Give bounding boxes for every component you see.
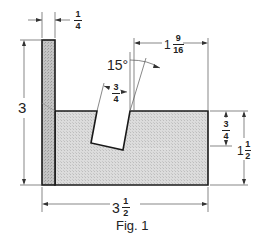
numerator: 9 [176, 34, 181, 43]
numerator: 1 [75, 10, 80, 19]
dim-slot-angle: 15° [107, 58, 128, 72]
numerator: 1 [123, 197, 128, 206]
whole-part: 1 [237, 144, 244, 158]
figure-caption: Fig. 1 [116, 219, 149, 232]
denominator: 4 [223, 132, 228, 141]
denominator: 4 [113, 95, 118, 104]
denominator: 16 [173, 46, 183, 55]
denominator: 4 [75, 22, 80, 31]
dim-overall-height: 3 [18, 100, 26, 115]
base-block [55, 111, 208, 185]
dim-upright-thickness: 1 4 [74, 10, 82, 31]
whole-part: 3 [112, 200, 120, 216]
denominator: 2 [123, 209, 128, 218]
dim-base-height: 1 1 2 [237, 140, 251, 161]
numerator: 3 [223, 120, 228, 129]
whole-part: 1 [164, 38, 171, 52]
upright [42, 40, 55, 185]
dim-slot-to-right-edge: 1 9 16 [164, 34, 184, 55]
fraction-part: 9 16 [173, 34, 184, 55]
dim-slot-depth: 3 4 [222, 120, 230, 141]
fraction-part: 1 2 [122, 197, 130, 218]
numerator: 1 [245, 140, 250, 149]
numerator: 3 [113, 83, 118, 92]
dim-overall-width: 3 1 2 [112, 197, 130, 218]
denominator: 2 [245, 152, 250, 161]
dim-slot-width: 3 4 [112, 83, 120, 104]
fraction-part: 1 2 [245, 140, 251, 161]
